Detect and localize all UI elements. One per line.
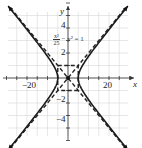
equation-numerator: x² — [53, 33, 60, 40]
hyperbola-plot — [0, 0, 142, 148]
y-tick-label-neg4: −4 — [56, 115, 66, 124]
y-tick-label-2: 2 — [61, 48, 66, 57]
x-tick-label-20: 20 — [103, 81, 112, 90]
y-tick-label-neg2: −2 — [56, 95, 66, 104]
x-axis-label: x — [133, 80, 137, 89]
equation-rest: − y² = 1 — [62, 35, 84, 43]
equation-label: x²25 − y² = 1 — [53, 33, 84, 46]
center-point — [66, 76, 70, 80]
equation-denominator: 25 — [53, 40, 60, 46]
y-tick-label-4: 4 — [61, 21, 66, 30]
y-axis-label: y — [60, 7, 64, 16]
x-tick-label-neg20: −20 — [22, 81, 36, 90]
